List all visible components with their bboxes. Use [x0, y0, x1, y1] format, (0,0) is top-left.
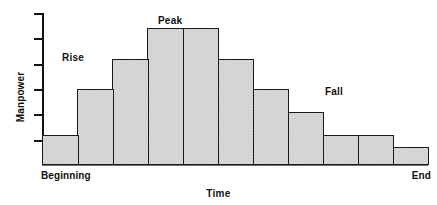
chart-annotation-peak: Peak: [158, 15, 182, 26]
chart-bar: [323, 135, 360, 165]
x-axis-start-caption: Beginning: [41, 170, 91, 181]
plot-area: [42, 13, 428, 165]
chart-bar: [393, 147, 430, 165]
x-axis-end-caption: End: [412, 170, 431, 181]
y-axis-title: Manpower: [14, 22, 28, 172]
chart-bar: [358, 135, 395, 165]
chart-annotation-fall: Fall: [325, 86, 343, 97]
chart-bar: [253, 89, 290, 165]
chart-bar: [42, 135, 79, 165]
manpower-over-time-chart: Manpower Beginning End Time RisePeakFall: [0, 0, 437, 205]
chart-bar: [77, 89, 114, 165]
chart-annotation-rise: Rise: [62, 52, 84, 63]
chart-bar: [217, 59, 254, 165]
chart-bar: [147, 28, 184, 165]
chart-bar: [288, 112, 325, 165]
x-axis-title: Time: [0, 188, 437, 199]
chart-bar: [182, 28, 219, 165]
chart-bar: [112, 59, 149, 165]
